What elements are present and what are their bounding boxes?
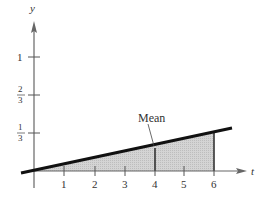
svg-text:1: 1 <box>18 122 23 132</box>
chart: y t Mean 1 2 3 4 5 6 1 2 3 1 3 <box>0 0 266 199</box>
x-tick-label-6: 6 <box>211 178 217 190</box>
svg-text:2: 2 <box>18 84 23 94</box>
y-tick-label-two-thirds: 2 3 <box>17 84 25 105</box>
x-tick-label-3: 3 <box>122 178 128 190</box>
x-tick-label-1: 1 <box>61 178 67 190</box>
y-tick-label-1: 1 <box>17 51 23 63</box>
mean-pointer <box>148 124 154 146</box>
x-tick-label-2: 2 <box>92 178 98 190</box>
x-axis-label: t <box>251 165 255 177</box>
svg-text:3: 3 <box>18 133 23 143</box>
x-tick-label-4: 4 <box>152 178 158 190</box>
svg-text:3: 3 <box>18 95 23 105</box>
mean-label: Mean <box>138 111 165 125</box>
y-tick-label-one-third: 1 3 <box>17 122 25 143</box>
y-axis-label: y <box>29 2 35 14</box>
x-tick-label-5: 5 <box>181 178 187 190</box>
